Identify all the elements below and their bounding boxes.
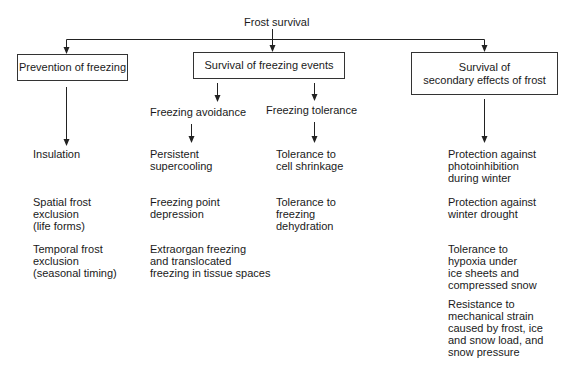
root-node-frost-survival: Frost survival [244,16,309,28]
item-protection-photoinhibition: Protection against photoinhibition durin… [448,148,536,184]
box-survival-of-secondary-effects: Survival of secondary effects of frost [411,52,558,95]
item-insulation: Insulation [33,148,80,160]
item-tolerance-hypoxia: Tolerance to hypoxia under ice sheets an… [448,243,537,291]
sub-branch-freezing-avoidance: Freezing avoidance [150,106,246,118]
sub-branch-freezing-tolerance: Freezing tolerance [266,104,357,116]
item-freezing-point-depression: Freezing point depression [150,196,220,220]
clipped-caption-strip [18,366,398,371]
item-protection-winter-drought: Protection against winter drought [448,196,536,220]
item-extraorgan-freezing: Extraorgan freezing and translocated fre… [150,243,270,279]
item-tolerance-cell-shrinkage: Tolerance to cell shrinkage [276,148,343,172]
box-prevention-of-freezing: Prevention of freezing [17,54,128,81]
item-tolerance-freezing-dehydration: Tolerance to freezing dehydration [276,196,336,232]
item-temporal-frost-exclusion: Temporal frost exclusion (seasonal timin… [33,243,117,279]
item-resistance-mechanical-strain: Resistance to mechanical strain caused b… [448,298,543,358]
item-persistent-supercooling: Persistent supercooling [150,148,212,172]
box-survival-of-freezing-events: Survival of freezing events [193,52,345,79]
item-spatial-frost-exclusion: Spatial frost exclusion (life forms) [33,196,91,232]
